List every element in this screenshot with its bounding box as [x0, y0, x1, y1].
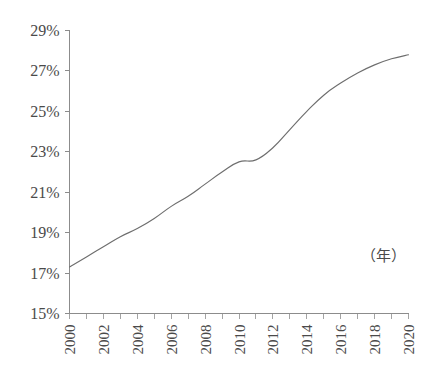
x-tick-label: 2010 — [232, 325, 248, 355]
y-tick-label: 23% — [30, 143, 59, 160]
x-tick-label: 2008 — [198, 325, 214, 355]
x-tick-label: 2002 — [96, 325, 112, 355]
x-tick-label: 2014 — [299, 324, 315, 355]
line-chart: 29%27%25%23%21%19%17%15% 200020022004200… — [0, 0, 428, 373]
x-tick-label: 2018 — [367, 325, 383, 355]
chart-container: 29%27%25%23%21%19%17%15% 200020022004200… — [0, 0, 428, 373]
x-tick-label: 2020 — [401, 325, 417, 355]
unit-annotation: （年） — [361, 248, 406, 264]
x-tick-label: 2004 — [130, 324, 146, 355]
x-tick-label: 2016 — [333, 324, 349, 355]
y-tick-label: 21% — [30, 184, 59, 201]
x-tick-label: 2006 — [164, 324, 180, 355]
y-tick-label: 15% — [30, 305, 59, 322]
x-tick-label: 2012 — [265, 325, 281, 355]
y-tick-label: 17% — [30, 265, 59, 282]
chart-background — [0, 0, 428, 373]
y-tick-label: 25% — [30, 103, 59, 120]
y-tick-label: 19% — [30, 224, 59, 241]
y-tick-label: 27% — [30, 62, 59, 79]
x-tick-label: 2000 — [62, 325, 78, 355]
y-tick-label: 29% — [30, 22, 59, 39]
year-unit-label: （年） — [361, 248, 406, 264]
